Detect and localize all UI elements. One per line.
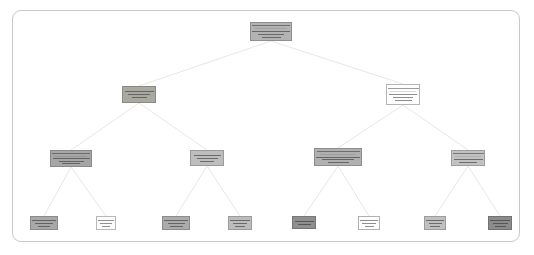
node-text-line — [132, 97, 147, 98]
tree-node[interactable] — [50, 150, 92, 167]
node-text-line — [100, 223, 112, 224]
node-text-line — [230, 220, 250, 221]
node-text-line — [235, 226, 245, 227]
tree-node[interactable] — [122, 86, 156, 103]
node-text-line — [365, 226, 374, 227]
node-text-line — [360, 220, 378, 221]
tree-node[interactable] — [386, 84, 420, 105]
node-text-line — [125, 91, 154, 92]
node-text-line — [200, 161, 214, 162]
tree-node[interactable] — [96, 216, 116, 230]
tree-node[interactable] — [228, 216, 252, 230]
node-divider — [455, 156, 480, 157]
node-text-line — [170, 226, 183, 227]
node-text-line — [252, 31, 290, 32]
tree-node[interactable] — [451, 150, 485, 166]
node-text-line — [62, 163, 80, 164]
tree-node[interactable] — [314, 148, 362, 166]
node-text-line — [454, 159, 483, 160]
node-text-line — [262, 37, 281, 38]
tree-node[interactable] — [358, 216, 380, 230]
node-text-line — [295, 221, 314, 222]
node-text-line — [35, 223, 53, 224]
node-text-line — [389, 94, 417, 95]
node-text-line — [430, 226, 440, 227]
tree-node[interactable] — [292, 216, 316, 229]
node-divider — [320, 154, 357, 155]
node-divider — [55, 156, 87, 157]
node-text-line — [429, 223, 442, 224]
node-header-text — [252, 25, 290, 26]
node-text-line — [59, 161, 84, 162]
node-divider — [390, 91, 415, 92]
tree-node[interactable] — [424, 216, 446, 230]
node-text-line — [197, 158, 218, 159]
node-text-line — [258, 34, 284, 35]
node-header-text — [317, 151, 360, 152]
node-text-line — [298, 224, 311, 225]
node-text-line — [168, 223, 185, 224]
node-text-line — [395, 100, 412, 101]
tree-node[interactable] — [190, 150, 224, 166]
node-text-line — [493, 223, 508, 224]
node-text-line — [194, 155, 221, 156]
tree-node[interactable] — [488, 216, 512, 230]
node-header-text — [453, 153, 484, 154]
node-text-line — [393, 97, 413, 98]
node-text-line — [233, 223, 247, 224]
node-text-line — [98, 220, 114, 221]
node-text-line — [164, 220, 188, 221]
node-text-line — [32, 220, 56, 221]
tree-node[interactable] — [30, 216, 58, 230]
node-header-text — [388, 88, 419, 89]
node-text-line — [53, 158, 90, 159]
node-text-line — [328, 162, 349, 163]
node-text-line — [459, 162, 477, 163]
node-text-line — [38, 226, 50, 227]
node-text-line — [426, 220, 444, 221]
tree-node[interactable] — [162, 216, 190, 230]
node-text-line — [322, 159, 354, 160]
node-text-line — [128, 94, 150, 95]
node-text-line — [316, 157, 360, 158]
node-text-line — [102, 226, 110, 227]
node-text-line — [495, 226, 506, 227]
tree-node[interactable] — [250, 22, 292, 41]
tree-diagram-canvas — [0, 0, 534, 255]
node-text-line — [490, 220, 510, 221]
node-text-line — [362, 223, 376, 224]
node-divider — [255, 28, 287, 29]
diagram-panel — [12, 10, 520, 242]
node-header-text — [52, 153, 90, 154]
